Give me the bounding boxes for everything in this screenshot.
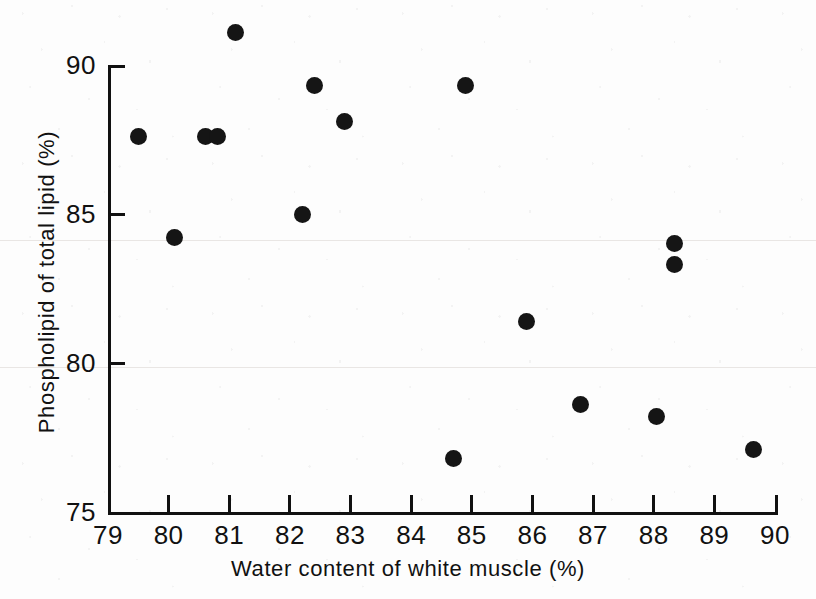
y-axis-title: Phospholipid of total lipid (%) <box>34 42 60 522</box>
x-axis-tick-label: 88 <box>629 522 679 548</box>
data-point <box>445 450 462 467</box>
x-axis-right-cap <box>775 495 778 515</box>
x-axis-tick-label: 83 <box>326 522 376 548</box>
data-point <box>457 77 474 94</box>
data-point <box>745 441 762 458</box>
data-point <box>294 206 311 223</box>
x-axis-tick-label: 79 <box>83 522 133 548</box>
data-point <box>166 229 183 246</box>
x-axis-tick-label: 86 <box>507 522 557 548</box>
data-point <box>209 128 226 145</box>
x-axis-title: Water content of white muscle (%) <box>0 556 816 582</box>
x-axis-tick-label: 87 <box>568 522 618 548</box>
x-axis-tick-label: 89 <box>689 522 739 548</box>
plot-area <box>108 65 775 512</box>
data-point <box>666 256 683 273</box>
x-axis-tick-label: 85 <box>447 522 497 548</box>
data-point <box>306 77 323 94</box>
x-axis-tick-label: 80 <box>144 522 194 548</box>
x-axis-line <box>108 512 778 515</box>
data-point <box>572 396 589 413</box>
x-axis-tick-label: 82 <box>265 522 315 548</box>
x-axis-tick-label: 84 <box>386 522 436 548</box>
x-axis-tick-label: 90 <box>750 522 800 548</box>
data-point <box>666 235 683 252</box>
data-point <box>336 113 353 130</box>
x-axis-tick-label: 81 <box>204 522 254 548</box>
scatter-plot-figure: 75808590 798081828384858687888990 Water … <box>0 0 816 599</box>
data-point <box>130 128 147 145</box>
data-point <box>227 24 244 41</box>
data-point <box>518 313 535 330</box>
data-point <box>648 408 665 425</box>
